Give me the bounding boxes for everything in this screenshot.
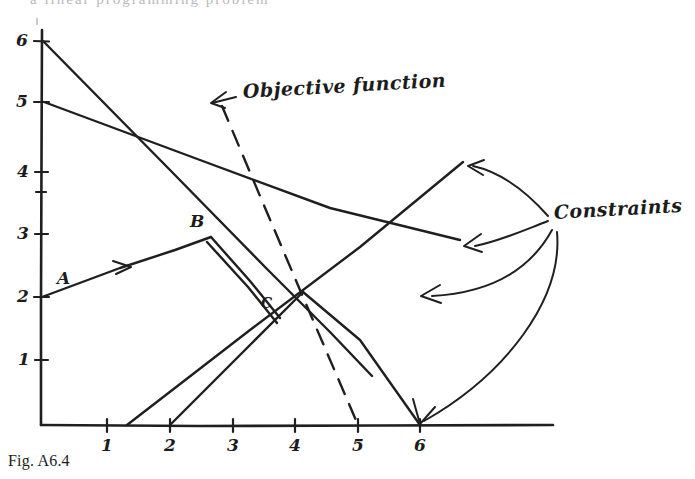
vertex-label-b: B (190, 213, 204, 230)
vertex-label-a: A (57, 270, 70, 287)
y-tick-6 (34, 41, 49, 42)
constraint-arrow-middle-shaft (475, 221, 548, 246)
x-tick-label-6: 6 (414, 437, 426, 454)
constraint-arrow-mid-left-head-icon (421, 285, 441, 303)
constraint-annotation-arrows (413, 160, 557, 424)
constraint-arrow-middle-head-icon (464, 234, 482, 252)
x-tick-label-5: 5 (352, 437, 364, 454)
y-tick-label-4: 4 (17, 163, 29, 180)
boundary-segment-a-b (42, 237, 211, 297)
constraint-arrow-upper-shaft (473, 166, 548, 216)
constraint-line-shallow-descending (44, 102, 460, 240)
figure-caption: Fig. A6.4 (8, 452, 70, 470)
y-axis (41, 30, 42, 425)
x-tick-label-1: 1 (101, 437, 113, 454)
constraint-line-ascending-to-six (170, 292, 420, 425)
y-tick-label-6: 6 (16, 32, 28, 49)
objective-function-line (222, 106, 358, 425)
x-tick-label-3: 3 (227, 437, 239, 454)
x-tick-label-4: 4 (289, 437, 301, 454)
constraint-arrow-mid-left-shaft (432, 230, 552, 296)
x-axis (41, 425, 553, 426)
x-tick-label-2: 2 (164, 437, 176, 454)
y-tick-label-3: 3 (17, 225, 29, 242)
objective-annotation-arrow (211, 92, 236, 108)
y-tick-label-5: 5 (16, 93, 28, 110)
constraint-arrow-lower-shaft (424, 232, 557, 421)
y-tick-label-2: 2 (17, 288, 29, 305)
objective-function-group (222, 106, 358, 425)
figure-linear-programming: a linear programming problem (0, 0, 695, 479)
constraint-line-ascending-low (127, 162, 463, 425)
y-tick-label-1: 1 (18, 351, 30, 368)
vertex-label-c: C (261, 296, 272, 310)
plot-canvas (0, 0, 695, 479)
feasible-boundary-group (42, 237, 280, 323)
